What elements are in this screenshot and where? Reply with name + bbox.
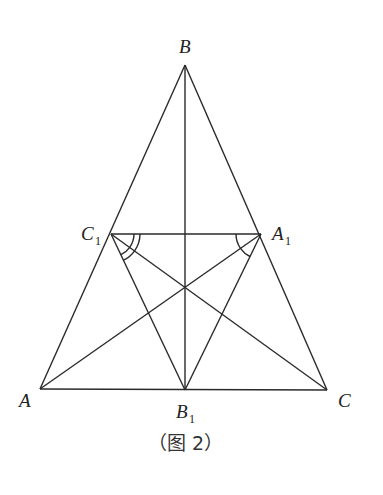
segment-A1B1 <box>185 234 261 390</box>
label-B1: B <box>176 401 188 422</box>
label-B: B <box>179 36 191 57</box>
angle-mark-C1-lower <box>121 247 130 254</box>
figure-caption: （图 2） <box>148 432 223 454</box>
label-B1-sub: 1 <box>189 412 195 426</box>
angle-mark-C1-outer <box>135 234 140 251</box>
segment-C1B1 <box>111 234 185 390</box>
label-C1-sub: 1 <box>95 234 101 248</box>
geometry-diagram: B C 1 A 1 A C B 1 （图 2） <box>0 0 383 495</box>
angle-mark-A1-upper <box>236 234 241 248</box>
label-A: A <box>17 390 31 411</box>
segment-AA1 <box>40 234 261 389</box>
label-C1: C <box>81 223 94 244</box>
segment-CC1 <box>111 234 327 390</box>
label-A1: A <box>270 223 284 244</box>
segment-AC <box>40 389 327 390</box>
label-C: C <box>338 390 351 411</box>
label-A1-sub: 1 <box>285 234 291 248</box>
segment-AB <box>40 65 185 389</box>
angle-mark-C1-inner <box>130 234 134 247</box>
segment-BC <box>185 65 327 390</box>
angle-mark-A1-lower <box>241 248 251 256</box>
